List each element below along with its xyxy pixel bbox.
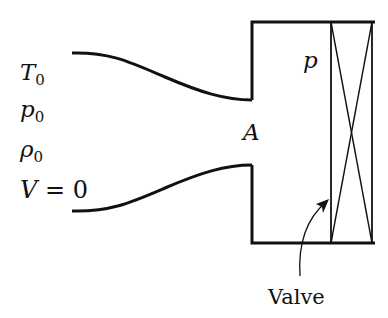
valve-pointer-arrow [300, 202, 326, 276]
nozzle-tank-diagram: T0 p0 ρ0 V = 0 A p Valve [0, 0, 388, 318]
label-rho0: ρ0 [19, 136, 43, 166]
nozzle-upper-wall [72, 53, 252, 100]
label-V0: V = 0 [20, 176, 88, 204]
valve [331, 22, 372, 243]
label-p0: p0 [20, 96, 44, 126]
label-T0: T0 [20, 59, 45, 89]
label-tank-pressure: p [303, 47, 318, 73]
nozzle-lower-wall [72, 165, 252, 211]
label-throat-area: A [241, 119, 260, 145]
label-valve: Valve [267, 285, 325, 309]
